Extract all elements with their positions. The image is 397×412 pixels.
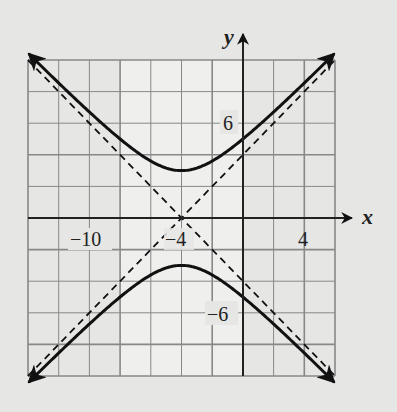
x-tick-4: 4 — [298, 228, 308, 250]
x-tick-minus4: −4 — [165, 228, 186, 250]
hyperbola-plot: x y −10 −4 4 6 −6 — [0, 0, 397, 412]
y-axis-label: y — [221, 24, 234, 49]
x-axis-label: x — [361, 204, 373, 229]
y-tick-minus6: −6 — [207, 303, 228, 325]
y-tick-6: 6 — [223, 112, 233, 134]
x-tick-minus10: −10 — [70, 228, 101, 250]
